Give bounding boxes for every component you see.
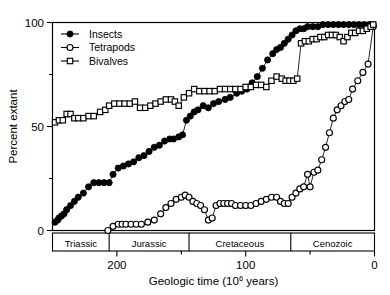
data-point <box>158 211 164 217</box>
data-point <box>132 99 137 104</box>
data-point <box>176 103 181 108</box>
data-point <box>85 184 91 190</box>
data-point <box>360 69 366 75</box>
period-label-jurassic: Jurassic <box>132 238 167 249</box>
data-point <box>285 200 291 206</box>
data-point <box>67 45 73 51</box>
legend-label-insects: Insects <box>89 28 122 40</box>
series-line <box>108 27 373 231</box>
plot-frame <box>53 23 375 231</box>
x-tick-label: 0 <box>371 259 377 271</box>
data-point <box>131 159 137 165</box>
data-point <box>264 57 270 63</box>
data-point <box>67 58 72 63</box>
x-tick-label: 100 <box>236 259 255 271</box>
x-tick-label: 200 <box>107 259 126 271</box>
data-point <box>179 132 185 138</box>
data-point <box>201 207 207 213</box>
data-point <box>355 78 361 84</box>
data-point <box>75 194 81 200</box>
data-point <box>163 205 169 211</box>
legend-label-bivalves: Bivalves <box>89 55 128 67</box>
data-point <box>141 153 147 159</box>
series-tetrapods <box>105 24 376 234</box>
y-tick-label: 0 <box>38 225 44 237</box>
data-point <box>106 180 112 186</box>
data-point <box>209 215 215 221</box>
data-point <box>138 221 144 227</box>
period-label-cenozoic: Cenozoic <box>313 238 353 249</box>
data-point <box>350 86 356 92</box>
data-point <box>67 31 73 37</box>
figure-container: 050100Percent extantTriassicJurassicCret… <box>0 0 390 295</box>
legend-label-tetrapods: Tetrapods <box>89 41 135 53</box>
data-point <box>227 94 233 100</box>
legend <box>61 31 79 64</box>
data-point <box>151 217 157 223</box>
data-point <box>254 73 260 79</box>
data-point <box>315 167 321 173</box>
data-point <box>326 130 332 136</box>
data-point <box>91 113 96 118</box>
data-point <box>319 157 325 163</box>
data-point <box>323 144 329 150</box>
data-point <box>371 22 376 27</box>
data-point <box>145 219 151 225</box>
data-point <box>301 184 307 190</box>
data-point <box>307 184 313 190</box>
y-tick-label: 50 <box>31 121 44 133</box>
data-point <box>105 228 111 234</box>
data-point <box>195 107 201 113</box>
period-label-cretaceous: Cretaceous <box>216 238 265 249</box>
x-axis-title: Geologic time (106 years) <box>149 274 279 287</box>
data-point <box>305 171 311 177</box>
y-axis-title: Percent extant <box>7 89 19 164</box>
data-point <box>80 190 86 196</box>
data-point <box>259 65 265 71</box>
data-point <box>264 84 269 89</box>
data-point <box>205 105 211 111</box>
data-point <box>330 115 336 121</box>
data-point <box>156 142 162 148</box>
data-point <box>60 118 65 123</box>
data-point <box>365 61 371 67</box>
data-point <box>110 171 116 177</box>
data-point <box>295 76 300 81</box>
data-point <box>168 200 174 206</box>
period-label-triassic: Triassic <box>65 238 98 249</box>
data-point <box>216 98 222 104</box>
y-tick-label: 100 <box>25 17 44 29</box>
data-point <box>346 96 352 102</box>
data-point <box>146 148 152 154</box>
chart-svg: 050100Percent extantTriassicJurassicCret… <box>0 0 390 295</box>
